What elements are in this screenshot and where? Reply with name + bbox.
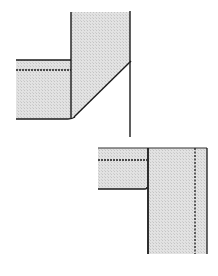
- bottom-vertical-panel: [148, 148, 207, 254]
- top-figure: [16, 11, 131, 137]
- diagram-canvas: [0, 0, 218, 276]
- bottom-horizontal-panel: [98, 148, 148, 189]
- top-vertical-panel: [71, 12, 130, 118]
- bottom-figure: [98, 148, 207, 254]
- top-horizontal-panel: [16, 60, 71, 119]
